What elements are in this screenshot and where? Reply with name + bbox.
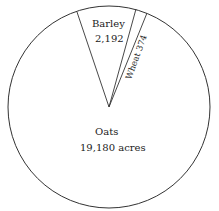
pie-chart: Wheat 374 [0,0,219,211]
oats-name: Oats [95,126,118,137]
barley-value: 2,192 [95,33,124,44]
barley-name: Barley [92,18,125,29]
oats-value: 19,180 acres [80,142,146,153]
